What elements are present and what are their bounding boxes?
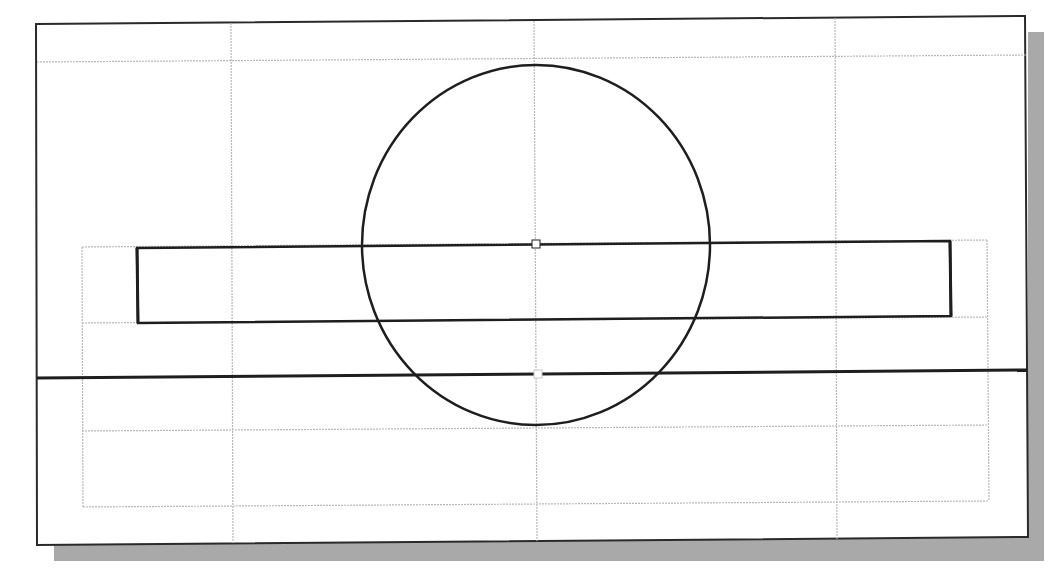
rectangle-right-edge[interactable] xyxy=(950,241,951,316)
rectangle-left-edge[interactable] xyxy=(137,248,138,323)
viewport-frame xyxy=(36,16,1028,545)
baseline-midpoint-marker[interactable] xyxy=(534,370,542,378)
drawing-canvas[interactable] xyxy=(0,0,1058,577)
cad-drawing-viewport[interactable] xyxy=(0,0,1058,577)
circle-center-marker[interactable] xyxy=(532,240,540,248)
